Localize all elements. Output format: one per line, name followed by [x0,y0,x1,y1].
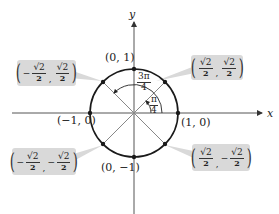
y-fraction: √22 [222,58,235,78]
unit-circle-diagram [0,0,279,214]
point-q3 [101,142,105,146]
paren-open: ( [16,62,21,84]
point-q1 [163,80,167,84]
y-axis-label: y [129,9,135,20]
angle-denominator: 4 [141,83,147,93]
paren-open: ( [190,57,195,79]
point-0-neg1 [132,155,136,159]
callout-q3-coordinates: ( − √22 , − √22 ) [12,148,76,175]
callout-q4-coordinates: ( √22 , − √22 ) [192,144,250,171]
label-point-1-0: (1, 0) [181,117,211,128]
comma: , [216,68,219,80]
y-sign: − [221,153,229,163]
x-fraction: √22 [199,58,212,78]
point-1-0 [176,111,180,115]
y-fraction: √22 [57,152,70,172]
angle-label-three-pi-over-4: 3π 4 [137,72,151,93]
y-sign: − [47,157,55,167]
x-sign: − [17,157,25,167]
x-sign: − [23,68,31,78]
label-point-0-1: (0, 1) [105,52,135,63]
angle-label-pi-over-4: π 4 [150,95,158,116]
callout-q1-coordinates: ( √22 , √22 ) [191,55,243,80]
paren-close: ) [246,147,251,169]
comma: , [49,74,52,86]
y-fraction: √22 [56,63,69,83]
label-point-neg1-0: (−1, 0) [57,115,96,126]
paren-close: ) [73,151,78,173]
paren-open: ( [10,151,15,173]
point-0-1 [132,67,136,71]
paren-close: ) [239,57,244,79]
x-fraction: √22 [26,152,39,172]
point-q2 [101,80,105,84]
y-fraction: √22 [230,148,243,168]
comma: , [43,163,46,175]
x-fraction: √22 [199,148,212,168]
point-q4 [163,142,167,146]
callout-q2-coordinates: ( − √22 , √22 ) [17,60,76,86]
paren-open: ( [190,147,195,169]
x-axis-label: x [267,108,273,119]
x-fraction: √22 [32,63,45,83]
paren-close: ) [72,62,77,84]
label-point-0-neg1: (0, −1) [101,162,140,173]
angle-denominator: 4 [151,106,157,116]
comma: , [216,159,219,171]
